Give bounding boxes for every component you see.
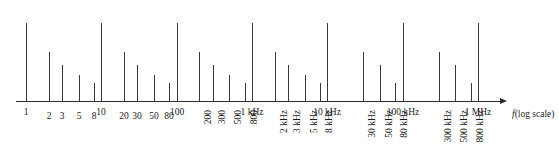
spectrum-stem: [320, 83, 321, 101]
spectrum-stem: [478, 23, 479, 101]
x-axis-tick-label: 2 kHz: [279, 110, 289, 133]
spectrum-stem: [252, 23, 253, 101]
x-axis-tick-label: 30: [132, 111, 142, 121]
spectrum-stem: [305, 75, 306, 101]
spectrum-stem: [229, 75, 230, 101]
x-axis-tick-label: 100 kHz: [387, 107, 419, 117]
x-axis-line: [16, 101, 500, 102]
x-axis-tick-label: 3 kHz: [292, 110, 302, 133]
spectrum-stem: [79, 75, 80, 101]
spectrum-stem: [439, 52, 440, 101]
x-axis-tick-label: 300: [217, 110, 227, 124]
spectrum-stem: [288, 65, 289, 101]
spectrum-stem: [455, 65, 456, 101]
spectrum-stem: [471, 83, 472, 101]
spectrum-stem: [363, 52, 364, 101]
x-axis-tick-label: 100: [170, 107, 184, 117]
spectrum-stem: [94, 83, 95, 101]
spectrum-stem: [137, 65, 138, 101]
x-axis-tick-label: 10 kHz: [313, 107, 341, 117]
x-axis-tick-label: 50: [149, 111, 159, 121]
x-axis-tick-label: 200: [203, 110, 213, 124]
x-axis-arrow-icon: [500, 98, 507, 104]
spectrum-stem: [403, 23, 404, 101]
x-axis-tick-label: 30 kHz: [367, 110, 377, 138]
x-axis-tick-label: 5: [77, 111, 82, 121]
log-frequency-spectrum-figure: 1235810203050801002003005008001 kHz2 kHz…: [0, 0, 559, 157]
spectrum-stem: [380, 65, 381, 101]
spectrum-stem: [245, 83, 246, 101]
spectrum-stem: [177, 23, 178, 101]
spectrum-stem: [26, 23, 27, 101]
spectrum-stem: [327, 23, 328, 101]
x-axis-tick-label: 10: [96, 107, 106, 117]
spectrum-stem: [213, 65, 214, 101]
spectrum-stem: [275, 52, 276, 101]
spectrum-stem: [154, 75, 155, 101]
x-axis-tick-label: 1 MHz: [465, 107, 492, 117]
x-axis-caption: f(log scale): [512, 109, 554, 120]
axis-caption-scale: (log scale): [515, 109, 555, 119]
spectrum-stem: [199, 52, 200, 101]
spectrum-stem: [169, 83, 170, 101]
spectrum-stem: [62, 65, 63, 101]
x-axis-tick-label: 2: [47, 111, 52, 121]
x-axis-tick-label: 1 kHz: [241, 107, 264, 117]
x-axis-tick-label: 20: [119, 111, 129, 121]
spectrum-stem: [124, 52, 125, 101]
x-axis-tick-label: 3: [60, 111, 65, 121]
spectrum-stem: [101, 23, 102, 101]
spectrum-stem: [49, 52, 50, 101]
x-axis-tick-label: 300 kHz: [443, 110, 453, 142]
x-axis-tick-label: 1: [24, 107, 29, 117]
spectrum-stem: [395, 83, 396, 101]
